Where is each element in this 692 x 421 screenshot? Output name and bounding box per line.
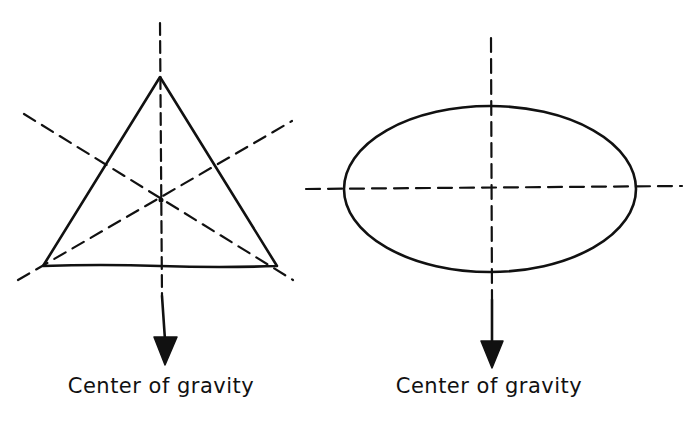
center-of-gravity-diagram <box>0 0 692 421</box>
ellipse-shape <box>344 106 636 272</box>
triangle-median-right <box>18 121 292 280</box>
down-arrow-icon <box>481 341 503 368</box>
ellipse-horizontal-axis <box>306 186 682 189</box>
ellipse-figure <box>306 38 682 368</box>
triangle-vertical-median <box>160 23 162 296</box>
triangle-arrow-shaft <box>162 296 165 340</box>
down-arrow-icon <box>154 337 177 365</box>
ellipse-caption: Center of gravity <box>396 374 583 398</box>
triangle-figure <box>18 23 293 365</box>
ellipse-vertical-axis <box>491 38 492 300</box>
triangle-caption: Center of gravity <box>68 374 255 398</box>
triangle-centroid <box>159 198 164 203</box>
triangle-median-left <box>24 114 293 280</box>
